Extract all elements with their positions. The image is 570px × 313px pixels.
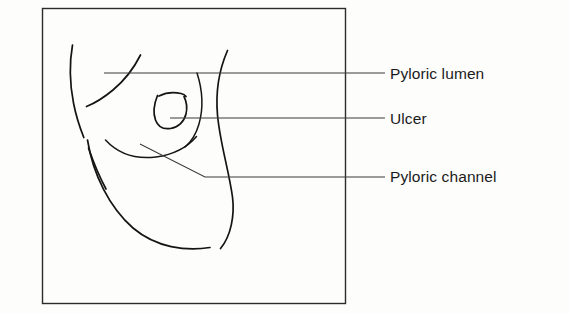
label-pyloric-lumen: Pyloric lumen [390, 65, 484, 82]
ulcer-crater-stroke [154, 96, 187, 129]
pyloric-ring-curve-stroke [185, 73, 202, 147]
label-pyloric-channel: Pyloric channel [390, 168, 497, 185]
figure-root: Pyloric lumen Ulcer Pyloric channel [0, 0, 570, 313]
left-outer-wall-upper-stroke [70, 45, 83, 138]
antral-fold-arc-stroke [106, 137, 197, 158]
right-wall-curve-stroke [217, 51, 233, 249]
leader-line-pyloric-channel [140, 144, 385, 177]
diagram-border [43, 9, 346, 304]
ulcer-crater-lip-stroke [159, 93, 186, 97]
lesser-curve-fold-stroke [87, 55, 141, 107]
greater-curve-sweep-stroke [88, 140, 211, 249]
diagram-canvas: Pyloric lumen Ulcer Pyloric channel [0, 0, 570, 313]
label-ulcer: Ulcer [390, 110, 427, 127]
